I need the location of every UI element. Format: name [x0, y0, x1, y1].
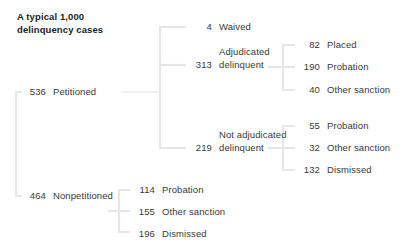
figure-title-line-1: A typical 1,000 — [17, 10, 103, 23]
bracket-adjudicated — [283, 45, 295, 90]
node-nonpetitioned-probation-count: 114 — [133, 184, 155, 197]
node-adjudicated-probation-label: Probation — [327, 61, 369, 74]
bracket-nonpetitioned — [119, 190, 130, 232]
node-adjudicated-count: 313 — [190, 59, 212, 72]
node-adjudicated-probation: 190Probation — [298, 61, 369, 74]
node-petitioned-count: 536 — [24, 86, 46, 99]
node-not-adjudicated-label: Not adjudicateddelinquent — [219, 129, 287, 154]
node-nonpetitioned-count: 464 — [24, 190, 46, 203]
node-petitioned-label: Petitioned — [53, 86, 96, 99]
node-not-adjudicated-other-count: 32 — [298, 142, 320, 155]
node-adjudicated-label-line-1: Adjudicated — [219, 46, 270, 59]
node-waived-label: Waived — [219, 21, 251, 34]
node-not-adjudicated-dismissed-count: 132 — [298, 164, 320, 177]
node-nonpetitioned-dismissed: 196Dismissed — [133, 228, 207, 241]
node-nonpetitioned-other-sanction: 155Other sanction — [133, 206, 225, 219]
node-not-adjudicated-other-label: Other sanction — [327, 142, 390, 155]
node-not-adjudicated-label-line-2: delinquent — [219, 142, 287, 155]
node-not-adjudicated-dismissed: 132Dismissed — [298, 164, 372, 177]
figure-title-line-2: delinquency cases — [17, 23, 103, 36]
node-adjudicated-placed-count: 82 — [298, 39, 320, 52]
node-not-adjudicated-probation-count: 55 — [298, 120, 320, 133]
node-not-adjudicated-count: 219 — [190, 142, 212, 155]
node-nonpetitioned-probation-label: Probation — [162, 184, 204, 197]
node-nonpetitioned: 464Nonpetitioned — [24, 190, 113, 203]
node-nonpetitioned-other-count: 155 — [133, 206, 155, 219]
node-nonpetitioned-probation: 114Probation — [133, 184, 204, 197]
node-adjudicated-other-sanction: 40Other sanction — [298, 84, 390, 97]
node-not-adjudicated-other-sanction: 32Other sanction — [298, 142, 390, 155]
node-petitioned: 536Petitioned — [24, 86, 96, 99]
node-nonpetitioned-dismissed-label: Dismissed — [162, 228, 207, 241]
figure-title: A typical 1,000 delinquency cases — [17, 10, 103, 36]
bracket-petitioned-outer — [160, 27, 186, 148]
node-nonpetitioned-dismissed-count: 196 — [133, 228, 155, 241]
bracket-root — [16, 92, 22, 196]
node-not-adjudicated-probation-label: Probation — [327, 120, 369, 133]
node-adjudicated-probation-count: 190 — [298, 61, 320, 74]
node-adjudicated-delinquent: 313Adjudicateddelinquent — [190, 46, 270, 71]
node-waived-count: 4 — [190, 21, 212, 34]
node-adjudicated-placed: 82Placed — [298, 39, 357, 52]
node-not-adjudicated-delinquent: 219Not adjudicateddelinquent — [190, 129, 287, 154]
node-adjudicated-label-line-2: delinquent — [219, 59, 270, 72]
node-nonpetitioned-other-label: Other sanction — [162, 206, 225, 219]
node-adjudicated-other-label: Other sanction — [327, 84, 390, 97]
node-not-adjudicated-probation: 55Probation — [298, 120, 369, 133]
node-nonpetitioned-label: Nonpetitioned — [53, 190, 113, 203]
flow-diagram: A typical 1,000 delinquency cases 536Pet… — [0, 0, 414, 250]
node-adjudicated-other-count: 40 — [298, 84, 320, 97]
node-adjudicated-placed-label: Placed — [327, 39, 357, 52]
node-waived: 4Waived — [190, 21, 251, 34]
node-not-adjudicated-dismissed-label: Dismissed — [327, 164, 372, 177]
node-adjudicated-label: Adjudicateddelinquent — [219, 46, 270, 71]
node-not-adjudicated-label-line-1: Not adjudicated — [219, 129, 287, 142]
